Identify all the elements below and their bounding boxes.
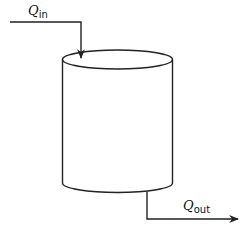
outflow-label: Qout bbox=[183, 198, 210, 215]
tank-bottom bbox=[63, 183, 173, 192]
tank bbox=[63, 50, 173, 192]
tank-top bbox=[63, 50, 173, 69]
inflow-pipe bbox=[10, 22, 81, 58]
tank-diagram: Qin Qout bbox=[0, 0, 243, 229]
inflow-label: Qin bbox=[28, 3, 48, 20]
inflow-arrow-icon bbox=[10, 22, 81, 58]
